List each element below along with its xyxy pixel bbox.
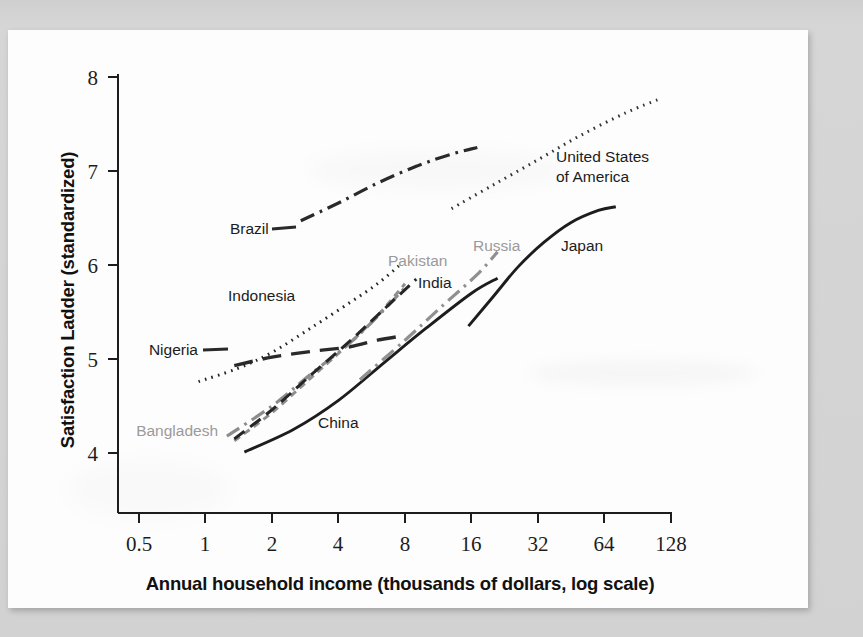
- y-tick-label: 5: [88, 348, 99, 372]
- series-label-bangladesh: Bangladesh: [136, 422, 218, 439]
- axis-group: 8 7 6 5 4 0.5 1 2 4 8 16 32 64 128 Satis…: [57, 66, 687, 594]
- series-line-brazil: [301, 148, 478, 221]
- series-label-pakistan: Pakistan: [388, 252, 447, 269]
- x-tick-label: 0.5: [126, 532, 152, 556]
- y-tick-label: 8: [88, 66, 99, 90]
- x-tick-label: 2: [267, 532, 278, 556]
- x-tick-label: 1: [200, 532, 211, 556]
- y-tick-marks: [108, 77, 118, 453]
- series-label-japan: Japan: [561, 237, 603, 254]
- series-labels: Nigeria Bangladesh China Indonesia Pakis…: [136, 148, 649, 439]
- series-line-china: [244, 278, 497, 452]
- satisfaction-income-chart: 8 7 6 5 4 0.5 1 2 4 8 16 32 64 128 Satis…: [0, 0, 863, 637]
- x-tick-label: 16: [461, 532, 482, 556]
- x-tick-label: 8: [400, 532, 411, 556]
- x-tick-label: 4: [333, 532, 344, 556]
- y-tick-label: 7: [88, 160, 99, 184]
- series-line-bangladesh: [227, 288, 405, 437]
- series-label-usa-line2: of America: [556, 168, 630, 185]
- y-tick-label: 6: [88, 254, 99, 278]
- series-label-india: India: [418, 274, 452, 291]
- screenshot-root: 8 7 6 5 4 0.5 1 2 4 8 16 32 64 128 Satis…: [0, 0, 863, 637]
- y-axis-title: Satisfaction Ladder (standardized): [57, 152, 78, 448]
- brazil-leader: [272, 227, 296, 229]
- y-tick-label: 4: [88, 442, 99, 466]
- x-tick-label: 128: [655, 532, 687, 556]
- x-axis-title: Annual household income (thousands of do…: [146, 573, 655, 594]
- series-label-china: China: [318, 414, 359, 431]
- x-tick-label: 32: [528, 532, 549, 556]
- series-label-nigeria: Nigeria: [149, 341, 198, 358]
- series-label-russia: Russia: [473, 237, 521, 254]
- series-label-usa-line1: United States: [556, 148, 649, 165]
- series-label-brazil: Brazil: [230, 220, 269, 237]
- series-line-nigeria: [234, 336, 405, 366]
- x-tick-marks: [139, 513, 671, 523]
- series-line-japan: [468, 207, 615, 326]
- series-label-indonesia: Indonesia: [228, 287, 296, 304]
- x-tick-label: 64: [594, 532, 616, 556]
- nigeria-leader: [203, 349, 228, 350]
